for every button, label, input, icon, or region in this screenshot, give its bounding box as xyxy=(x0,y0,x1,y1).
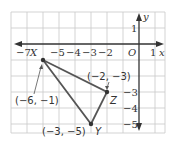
vertex-z-label: Z xyxy=(109,95,118,106)
y-tick-label: 1 xyxy=(131,23,137,34)
y-tick-label: −4 xyxy=(123,103,138,114)
coord-label-z: (−2, −3) xyxy=(87,71,131,82)
pointer-arrow-x-icon xyxy=(39,64,43,69)
y-tick-label: −5 xyxy=(123,119,138,130)
y-axis-up-arrow-icon xyxy=(136,13,142,21)
point-z xyxy=(105,90,109,94)
pointer-line-x xyxy=(34,67,41,94)
x-tick-label: −5 xyxy=(50,47,65,58)
x-tick-label: −4 xyxy=(66,47,81,58)
y-tick-label: −3 xyxy=(123,87,138,98)
vertex-x-label: X xyxy=(29,47,38,58)
origin-label: O xyxy=(128,47,136,58)
coord-label-y: (−3, −5) xyxy=(42,126,86,137)
x-tick-label: −7 xyxy=(16,47,31,58)
vertex-y-label: Y xyxy=(95,126,102,137)
x-tick-label: −3 xyxy=(82,47,97,58)
x-tick-label: 1 xyxy=(150,47,156,58)
x-axis-label: x xyxy=(159,47,165,58)
y-axis-label: y xyxy=(142,11,149,22)
coord-label-x: (−6, −1) xyxy=(15,95,59,106)
point-y xyxy=(89,122,93,126)
coordinate-plane: x y O −7 −5 −4 −3 −2 1 1 −3 −4 −5 X Z Y … xyxy=(0,0,178,149)
x-tick-label: −2 xyxy=(98,47,113,58)
pointer-arrow-z-icon xyxy=(105,86,109,90)
point-x xyxy=(41,58,45,62)
